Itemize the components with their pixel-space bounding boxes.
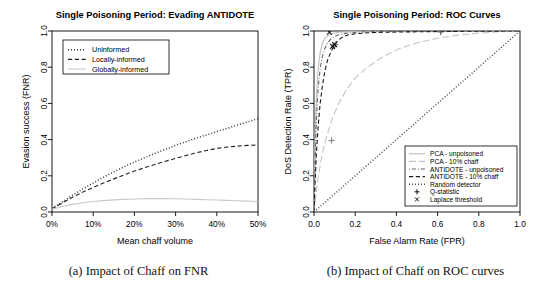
x-tick-label: 1.0 — [514, 219, 526, 229]
x-tick-label: 0.4 — [391, 219, 403, 229]
y-tick-label: 0.0 — [301, 206, 311, 218]
x-axis-title: False Alarm Rate (FPR) — [369, 236, 465, 246]
fnr-panel: Single Poisoning Period: Evading ANTIDOT… — [0, 0, 277, 255]
series-uninformed — [52, 119, 258, 209]
y-tick-label: 0.8 — [39, 61, 49, 73]
marker-+ — [328, 137, 334, 143]
marker-+ — [438, 29, 444, 35]
series-layer — [52, 119, 258, 209]
caption-b: (b) Impact of Chaff on ROC curves — [277, 258, 554, 288]
caption-a: (a) Impact of Chaff on FNR — [0, 258, 277, 288]
x-tick-label: 0% — [46, 219, 59, 229]
x-tick-label: 50% — [250, 219, 267, 229]
y-tick-label: 0.0 — [39, 206, 49, 218]
y-tick-label: 0.8 — [301, 61, 311, 73]
x-tick-label: 0.6 — [432, 219, 444, 229]
x-axis-title: Mean chaff volume — [117, 236, 193, 246]
legend: PCA - unpoisonedPCA - 10% chaffANTIDOTE … — [405, 146, 517, 206]
x-tick-label: 0.2 — [349, 219, 361, 229]
y-tick-label: 0.2 — [39, 170, 49, 182]
fnr-chart: Single Poisoning Period: Evading ANTIDOT… — [0, 0, 277, 255]
y-tick-label: 1.0 — [301, 25, 311, 37]
x-tick-label: 40% — [208, 219, 225, 229]
x-tick-label: 0.8 — [473, 219, 485, 229]
x-tick-label: 30% — [167, 219, 184, 229]
roc-chart: Single Poisoning Period: ROC Curves0.00.… — [277, 0, 554, 255]
x-tick-label: 20% — [126, 219, 143, 229]
figure-container: Single Poisoning Period: Evading ANTIDOT… — [0, 0, 554, 293]
legend-label: Random detector — [430, 181, 481, 188]
legend-label: Locally-informed — [92, 55, 145, 64]
chart-title: Single Poisoning Period: Evading ANTIDOT… — [56, 10, 255, 20]
y-tick-label: 1.0 — [39, 25, 49, 37]
x-tick-label: 10% — [85, 219, 102, 229]
y-tick-label: 0.6 — [301, 97, 311, 109]
y-tick-label: 0.2 — [301, 170, 311, 182]
legend-label: Uninformed — [92, 45, 129, 54]
caption-a-text: (a) Impact of Chaff on FNR — [69, 264, 209, 279]
y-tick-label: 0.4 — [39, 133, 49, 145]
x-tick-label: 0.0 — [308, 219, 320, 229]
series-locally-informed — [52, 145, 258, 209]
caption-b-text: (b) Impact of Chaff on ROC curves — [327, 264, 505, 279]
legend-label: PCA - 10% chaff — [430, 158, 478, 165]
roc-panel: Single Poisoning Period: ROC Curves0.00.… — [277, 0, 554, 255]
series-globally-informed — [52, 199, 258, 209]
chart-title: Single Poisoning Period: ROC Curves — [333, 10, 500, 20]
legend: UninformedLocally-informedGlobally-infor… — [63, 40, 169, 74]
legend-label: Laplace threshold — [430, 196, 482, 204]
y-tick-label: 0.4 — [301, 133, 311, 145]
y-axis-title: Evasion success (FNR) — [21, 74, 31, 168]
legend-label: ANTIDOTE - 10% chaff — [430, 173, 499, 180]
y-axis-title: DoS Detection Rate (TPR) — [283, 68, 293, 174]
legend-label: Globally-informed — [92, 65, 148, 74]
y-tick-label: 0.6 — [39, 97, 49, 109]
